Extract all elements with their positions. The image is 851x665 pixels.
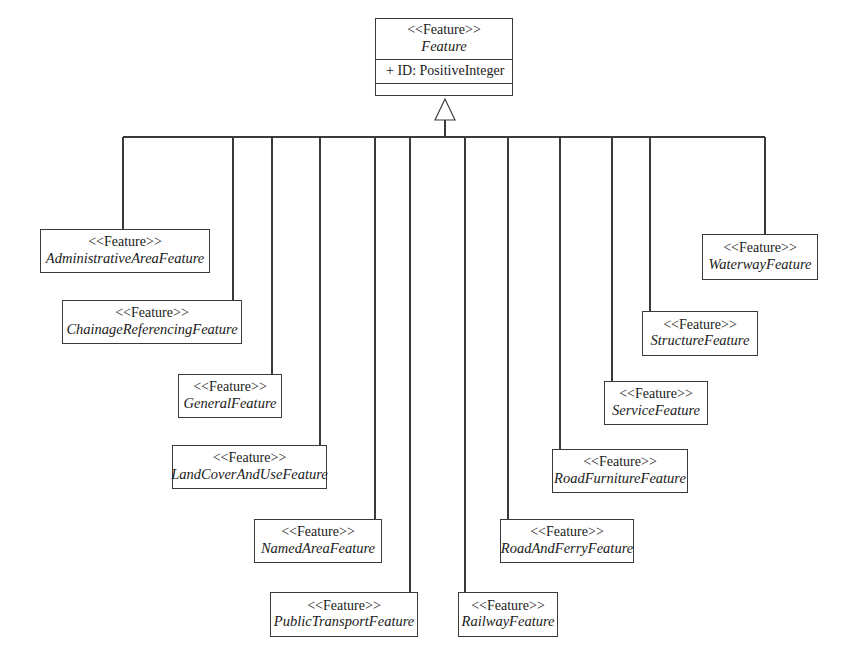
class-title: LandCoverAndUseFeature bbox=[171, 466, 328, 482]
class-box-chainage-referencing-feature[interactable]: <<Feature>>ChainageReferencingFeature bbox=[62, 300, 242, 344]
class-title: Feature bbox=[421, 38, 466, 54]
class-operations-compartment bbox=[376, 83, 512, 95]
class-name-compartment: <<Feature>>ChainageReferencingFeature bbox=[63, 301, 241, 343]
class-box-land-cover-and-use-feature[interactable]: <<Feature>>LandCoverAndUseFeature bbox=[172, 445, 327, 489]
uml-class-diagram: <<Feature>>Feature+ ID: PositiveInteger<… bbox=[0, 0, 851, 665]
class-title: NamedAreaFeature bbox=[261, 540, 375, 556]
class-stereotype: <<Feature>> bbox=[115, 305, 189, 321]
class-stereotype: <<Feature>> bbox=[723, 240, 797, 256]
class-name-compartment: <<Feature>>RoadAndFerryFeature bbox=[501, 520, 633, 562]
class-stereotype: <<Feature>> bbox=[88, 234, 162, 250]
class-name-compartment: <<Feature>>NamedAreaFeature bbox=[255, 520, 381, 562]
class-box-public-transport-feature[interactable]: <<Feature>>PublicTransportFeature bbox=[270, 592, 418, 637]
class-attribute: + ID: PositiveInteger bbox=[376, 59, 512, 83]
class-stereotype: <<Feature>> bbox=[663, 317, 737, 333]
class-stereotype: <<Feature>> bbox=[619, 386, 693, 402]
class-box-named-area-feature[interactable]: <<Feature>>NamedAreaFeature bbox=[254, 519, 382, 563]
class-title: RailwayFeature bbox=[462, 613, 555, 629]
class-box-waterway-feature[interactable]: <<Feature>>WaterwayFeature bbox=[702, 234, 818, 280]
class-name-compartment: <<Feature>>ServiceFeature bbox=[605, 382, 707, 424]
class-box-road-furniture-feature[interactable]: <<Feature>>RoadFurnitureFeature bbox=[552, 449, 688, 493]
class-stereotype: <<Feature>> bbox=[213, 450, 287, 466]
class-stereotype: <<Feature>> bbox=[407, 22, 481, 38]
class-title: StructureFeature bbox=[651, 332, 750, 348]
class-title: ChainageReferencingFeature bbox=[66, 321, 237, 337]
class-title: WaterwayFeature bbox=[709, 256, 812, 272]
class-stereotype: <<Feature>> bbox=[583, 454, 657, 470]
class-name-compartment: <<Feature>>AdministrativeAreaFeature bbox=[41, 230, 209, 272]
class-name-compartment: <<Feature>>Feature bbox=[376, 19, 512, 59]
class-box-railway-feature[interactable]: <<Feature>>RailwayFeature bbox=[458, 592, 558, 637]
class-title: RoadFurnitureFeature bbox=[554, 470, 686, 486]
class-name-compartment: <<Feature>>WaterwayFeature bbox=[703, 235, 817, 279]
class-box-road-and-ferry-feature[interactable]: <<Feature>>RoadAndFerryFeature bbox=[500, 519, 634, 563]
class-stereotype: <<Feature>> bbox=[307, 598, 381, 614]
generalization-arrowhead bbox=[435, 99, 455, 120]
class-stereotype: <<Feature>> bbox=[471, 598, 545, 614]
class-name-compartment: <<Feature>>LandCoverAndUseFeature bbox=[173, 446, 326, 488]
class-title: RoadAndFerryFeature bbox=[501, 540, 633, 556]
class-box-service-feature[interactable]: <<Feature>>ServiceFeature bbox=[604, 381, 708, 425]
class-title: AdministrativeAreaFeature bbox=[46, 250, 204, 266]
class-name-compartment: <<Feature>>GeneralFeature bbox=[179, 375, 281, 417]
class-stereotype: <<Feature>> bbox=[193, 379, 267, 395]
class-box-administrative-area-feature[interactable]: <<Feature>>AdministrativeAreaFeature bbox=[40, 229, 210, 273]
class-box-root-feature[interactable]: <<Feature>>Feature+ ID: PositiveInteger bbox=[375, 18, 513, 96]
class-name-compartment: <<Feature>>RoadFurnitureFeature bbox=[553, 450, 687, 492]
class-stereotype: <<Feature>> bbox=[281, 524, 355, 540]
class-box-general-feature[interactable]: <<Feature>>GeneralFeature bbox=[178, 374, 282, 418]
class-title: ServiceFeature bbox=[612, 402, 700, 418]
class-name-compartment: <<Feature>>RailwayFeature bbox=[459, 593, 557, 636]
class-title: PublicTransportFeature bbox=[274, 613, 414, 629]
class-name-compartment: <<Feature>>PublicTransportFeature bbox=[271, 593, 417, 636]
class-name-compartment: <<Feature>>StructureFeature bbox=[643, 312, 757, 355]
class-box-structure-feature[interactable]: <<Feature>>StructureFeature bbox=[642, 311, 758, 356]
class-title: GeneralFeature bbox=[184, 395, 277, 411]
class-stereotype: <<Feature>> bbox=[530, 524, 604, 540]
